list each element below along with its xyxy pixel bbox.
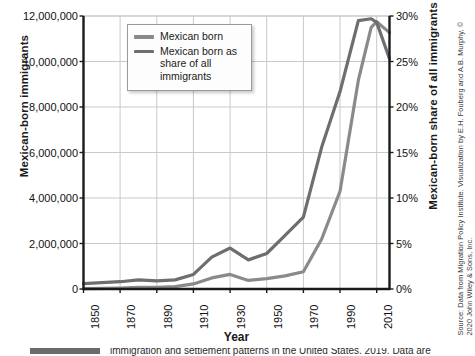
left-axis-tick-label: 10,000,000 — [4, 56, 78, 68]
left-axis-tick-label: 0 — [4, 283, 78, 295]
left-axis-title: Mexican-born immigrants — [18, 0, 30, 216]
x-axis-tick-label: 1970 — [308, 305, 320, 329]
left-axis-tick-label: 2,000,000 — [4, 238, 78, 250]
x-axis-title: Year — [83, 330, 390, 344]
left-axis-tick-label: 4,000,000 — [4, 192, 78, 204]
legend-item-mexican-born-share: Mexican born as share of all immigrants — [134, 45, 245, 83]
chart-legend: Mexican born Mexican born as share of al… — [127, 24, 252, 91]
legend-label: Mexican born as share of all immigrants — [160, 45, 245, 83]
x-axis-tick-label: 1930 — [235, 305, 247, 329]
right-axis-title: Mexican-born share of all immigrants — [427, 0, 439, 226]
x-axis-tick-label: 1990 — [345, 305, 357, 329]
legend-label: Mexican born — [160, 30, 223, 43]
right-axis-tick-label: 0% — [396, 283, 436, 295]
caption-text: immigration and settlement patterns in t… — [110, 348, 431, 356]
left-axis-tick-label: 12,000,000 — [4, 10, 78, 22]
legend-item-mexican-born: Mexican born — [134, 30, 245, 43]
left-axis-tick-label: 8,000,000 — [4, 101, 78, 113]
x-axis-tick-label: 1950 — [272, 305, 284, 329]
legend-swatch-icon — [134, 35, 154, 39]
left-axis-tick-labels: 02,000,0004,000,0006,000,0008,000,00010,… — [0, 0, 78, 356]
x-axis-tick-label: 1870 — [125, 305, 137, 329]
left-axis-tick-label: 6,000,000 — [4, 147, 78, 159]
figure-caption-strip: immigration and settlement patterns in t… — [0, 348, 468, 356]
source-credit: Source: Data from Migration Policy Insti… — [457, 6, 474, 336]
x-axis-tick-label: 1850 — [89, 305, 101, 329]
legend-swatch-icon — [134, 50, 154, 54]
x-axis-tick-label: 2010 — [382, 305, 394, 329]
x-axis-tick-label: 1910 — [198, 305, 210, 329]
right-axis-tick-label: 5% — [396, 238, 436, 250]
x-axis-tick-label: 1890 — [162, 305, 174, 329]
caption-color-block — [30, 348, 100, 354]
